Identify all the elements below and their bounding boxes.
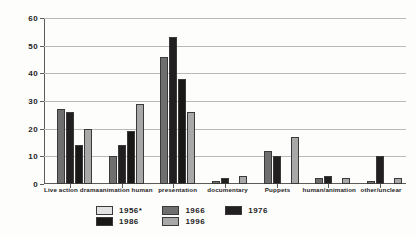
legend-swatch — [96, 217, 113, 226]
bar-chart: 0102030405060 Live action dramaanimation… — [0, 0, 416, 236]
bar — [291, 137, 299, 184]
bar — [367, 181, 375, 184]
bar-group — [96, 18, 148, 184]
legend-label: 1986 — [119, 217, 156, 226]
bar — [273, 156, 281, 184]
bar — [342, 178, 350, 184]
legend-label: 1966 — [185, 206, 219, 215]
y-axis-tick-label: 50 — [28, 41, 38, 50]
y-axis-tick-label: 40 — [28, 69, 38, 78]
legend-swatch — [162, 217, 179, 226]
plot-area: 0102030405060 — [44, 18, 406, 184]
y-axis-tick — [40, 184, 44, 185]
x-axis-labels: Live action dramaanimation humanpresenta… — [44, 186, 406, 193]
bar — [136, 104, 144, 184]
bar-group — [44, 18, 96, 184]
bar-group — [303, 18, 355, 184]
bar — [169, 37, 177, 184]
x-axis-label: Live action drama — [44, 186, 99, 193]
bar-group — [199, 18, 251, 184]
x-axis-label: animation human — [99, 186, 152, 193]
chart-legend: 1956*1966197619861996 — [96, 205, 282, 227]
bar — [187, 112, 195, 184]
bar — [127, 131, 135, 184]
bar-group — [251, 18, 303, 184]
bar — [75, 145, 83, 184]
bar — [109, 156, 117, 184]
x-axis-label: Puppets — [253, 186, 303, 193]
legend-swatch — [225, 206, 242, 215]
bar — [66, 112, 74, 184]
legend-label: 1976 — [248, 206, 282, 215]
bar — [264, 151, 272, 184]
x-axis-label: presentation — [153, 186, 203, 193]
bar-groups — [44, 18, 406, 184]
legend-label: 1996 — [185, 217, 219, 226]
bar — [376, 156, 384, 184]
bar — [394, 178, 402, 184]
y-axis-tick-label: 30 — [28, 97, 38, 106]
bar-group — [354, 18, 406, 184]
bar — [57, 109, 65, 184]
legend-swatch — [96, 206, 113, 215]
x-axis-label: documentary — [203, 186, 253, 193]
legend-swatch — [162, 206, 179, 215]
bar — [84, 129, 92, 184]
bar — [324, 176, 332, 184]
legend-label: 1956* — [119, 206, 156, 215]
y-axis-tick-label: 0 — [33, 180, 38, 189]
bar — [178, 79, 186, 184]
y-axis-tick-label: 10 — [28, 152, 38, 161]
x-axis-label: other/unclear — [356, 186, 406, 193]
bar-group — [147, 18, 199, 184]
bar — [315, 178, 323, 184]
bar — [212, 181, 220, 184]
x-axis-label: human/animation — [303, 186, 356, 193]
y-axis-tick-label: 60 — [28, 14, 38, 23]
bar — [239, 176, 247, 184]
y-axis-tick-label: 20 — [28, 124, 38, 133]
bar — [160, 57, 168, 184]
bar — [118, 145, 126, 184]
